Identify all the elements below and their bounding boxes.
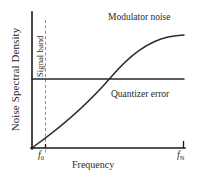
y-axis-label: Noise Spectral Density xyxy=(10,15,21,145)
x-tick-label-f0: f0 xyxy=(38,149,44,160)
x-tick-label-fn-sub: N xyxy=(180,154,185,161)
noise-spectral-density-chart: Noise Spectral Density Signal band Modul… xyxy=(0,0,203,177)
modulator-noise-label: Modulator noise xyxy=(108,13,171,23)
plot-canvas xyxy=(0,0,203,177)
x-axis-label: Frequency xyxy=(72,160,114,170)
quantizer-error-label: Quantizer error xyxy=(111,90,169,100)
signal-band-label: Signal band xyxy=(36,20,45,92)
x-tick-label-f0-sub: 0 xyxy=(41,154,44,161)
x-tick-label-fn: fN xyxy=(177,149,184,160)
